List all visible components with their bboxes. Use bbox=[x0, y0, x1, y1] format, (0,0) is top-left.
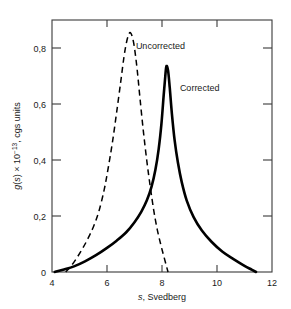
curve-uncorrected bbox=[66, 32, 168, 272]
svg-text:g(s) × 10−13, cgs units: g(s) × 10−13, cgs units bbox=[11, 102, 23, 190]
y-tick-label: 0,2 bbox=[33, 212, 46, 222]
svg-text:s, Svedberg: s, Svedberg bbox=[138, 292, 186, 302]
annotation-corrected: Corrected bbox=[180, 83, 220, 93]
figure-container: 4681012 00,20,40,60,8 UncorrectedCorrect… bbox=[0, 0, 291, 309]
y-tick-label: 0,8 bbox=[33, 44, 46, 54]
x-tick-label: 8 bbox=[159, 278, 164, 288]
plot-frame bbox=[52, 20, 272, 272]
x-axis-tick-labels: 4681012 bbox=[49, 278, 277, 288]
data-curves bbox=[55, 32, 256, 272]
chart-canvas: 4681012 00,20,40,60,8 UncorrectedCorrect… bbox=[0, 0, 291, 309]
annotation-uncorrected: Uncorrected bbox=[136, 41, 185, 51]
y-tick-label: 0 bbox=[41, 268, 46, 278]
x-axis-ticks bbox=[107, 265, 217, 272]
y-axis-ticks-right bbox=[263, 48, 272, 216]
y-tick-label: 0,4 bbox=[33, 156, 46, 166]
x-tick-label: 4 bbox=[49, 278, 54, 288]
x-tick-label: 12 bbox=[267, 278, 277, 288]
x-axis-title: s, Svedberg bbox=[138, 292, 186, 302]
series-annotations: UncorrectedCorrected bbox=[136, 41, 220, 93]
x-tick-label: 10 bbox=[212, 278, 222, 288]
x-axis-ticks-top bbox=[107, 20, 217, 27]
y-axis-ticks bbox=[52, 48, 61, 216]
y-axis-tick-labels: 00,20,40,60,8 bbox=[33, 44, 46, 278]
y-tick-label: 0,6 bbox=[33, 100, 46, 110]
y-axis-title: g(s) × 10−13, cgs units bbox=[11, 102, 23, 190]
curve-corrected bbox=[55, 66, 256, 272]
x-tick-label: 6 bbox=[104, 278, 109, 288]
